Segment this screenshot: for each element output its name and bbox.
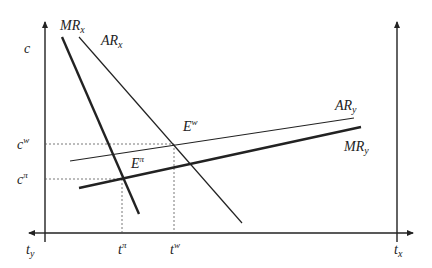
tick-label-cpi: cπ (17, 170, 28, 187)
mry-curve (79, 127, 361, 188)
label-ary: ARy (334, 98, 357, 115)
mrx-curve (62, 37, 139, 214)
tick-label-tpi: tπ (118, 240, 127, 257)
label-arx: ARx (100, 33, 123, 50)
label-ew: Ew (182, 117, 198, 134)
axis-label-c: c (24, 41, 31, 56)
label-epi: Eπ (130, 154, 145, 171)
axis-label-tx: tx (394, 242, 403, 259)
label-mrx: MRx (59, 18, 85, 35)
tick-label-cw: cw (17, 135, 29, 152)
diagram-canvas: c MRx ARx ARy MRy Ew Eπ cw cπ tπ tw ty t… (0, 0, 432, 268)
axis-label-ty: ty (26, 242, 35, 259)
label-mry: MRy (343, 139, 369, 156)
tick-label-tw: tw (170, 240, 180, 257)
ary-curve (70, 118, 354, 161)
